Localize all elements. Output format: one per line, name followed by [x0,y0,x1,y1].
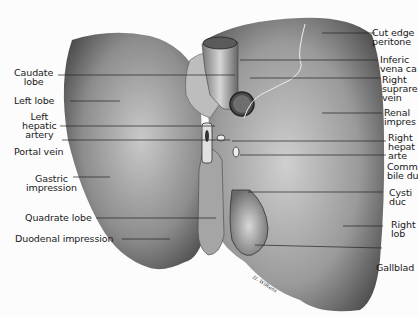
label-common-bile-duct: Comm bile du [387,162,418,180]
label-cystic-duct: Cysti duc [389,188,412,206]
label-cut-edge-peritoneum: Cut edge peritone [372,28,414,46]
liver-illustration [0,0,418,316]
label-inferior-vena-cava: Inferic vena ca [380,55,417,73]
label-duodenal-impression: Duodenal impression [15,234,113,243]
label-quadrate-lobe: Quadrate lobe [25,213,92,222]
anatomy-figure: Caudate lobe Left lobe Left hepatic arte… [0,0,418,316]
label-right-hepatic-artery: Right hepat arte [388,133,415,160]
label-left-hepatic-artery: Left hepatic artery [22,112,57,139]
label-caudate-lobe: Caudate lobe [14,68,53,86]
quadrate-lobe-shape [198,149,224,255]
label-gastric-impression: Gastric impression [26,174,77,192]
label-right-suprarenal-vein: Right suprare vein [382,75,418,102]
label-renal-impression: Renal impres [384,108,416,126]
label-left-lobe: Left lobe [14,96,54,105]
label-portal-vein: Portal vein [14,147,63,156]
label-gallbladder: Gallblad [376,263,414,272]
label-right-lobe: Right lob [391,220,416,238]
